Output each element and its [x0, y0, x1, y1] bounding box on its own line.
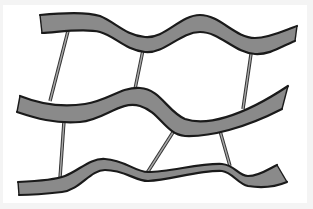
diagram-frame — [0, 0, 313, 209]
ribbon-rod-diagram — [0, 0, 313, 209]
rod-2 — [135, 50, 143, 89]
rod-4 — [60, 121, 64, 178]
rod-1 — [50, 31, 68, 101]
rod-5 — [147, 126, 177, 173]
rod-6 — [220, 131, 230, 166]
ribbon-middle — [17, 86, 288, 136]
rod-3 — [243, 54, 251, 109]
ribbon-top — [40, 13, 297, 54]
